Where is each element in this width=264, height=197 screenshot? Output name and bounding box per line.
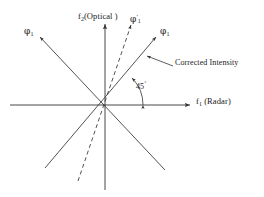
phi1-left-label: φ1 bbox=[24, 27, 33, 37]
phi1-prime-sub: 1 bbox=[138, 18, 141, 24]
phi1-right-label: φ1 bbox=[160, 27, 169, 37]
figure-canvas: f2(Optical ) φ′1 φ1 φ1 Corrected Intensi… bbox=[0, 0, 264, 197]
y-axis-label: f2(Optical ) bbox=[78, 12, 118, 22]
angle-45-label: 45˚ bbox=[136, 81, 146, 91]
x-axis-label: f1 (Radar) bbox=[196, 97, 231, 107]
angle-45-value: 45 bbox=[136, 82, 144, 91]
x-axis-label-rest: (Radar) bbox=[202, 96, 231, 106]
corrected-intensity-label: Corrected Intensity bbox=[175, 59, 238, 67]
phi1-prime-label: φ′1 bbox=[130, 14, 141, 24]
phi1-right-sub: 1 bbox=[166, 31, 169, 37]
phi1-prime-dashed-line bbox=[78, 25, 131, 181]
phi1-left-sub: 1 bbox=[30, 31, 33, 37]
y-axis-label-rest: (Optical ) bbox=[84, 11, 118, 21]
degree-icon: ˚ bbox=[144, 80, 146, 87]
corrected-intensity-leader-line bbox=[147, 56, 173, 66]
phi1-secondary-diagonal bbox=[40, 37, 165, 170]
phi1-main-diagonal bbox=[45, 37, 156, 168]
